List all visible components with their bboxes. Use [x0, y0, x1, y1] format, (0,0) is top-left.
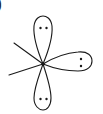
central-atom [41, 62, 45, 66]
lone-pair-top [39, 27, 47, 29]
bond-line-lower-left [9, 64, 43, 75]
top-lobe [34, 16, 52, 64]
right-lobe [43, 52, 92, 71]
lone-pair-bottom [39, 98, 47, 100]
lone-pair-right [80, 58, 82, 67]
bottom-lobe [34, 64, 51, 110]
orbital-diagram [0, 0, 103, 114]
